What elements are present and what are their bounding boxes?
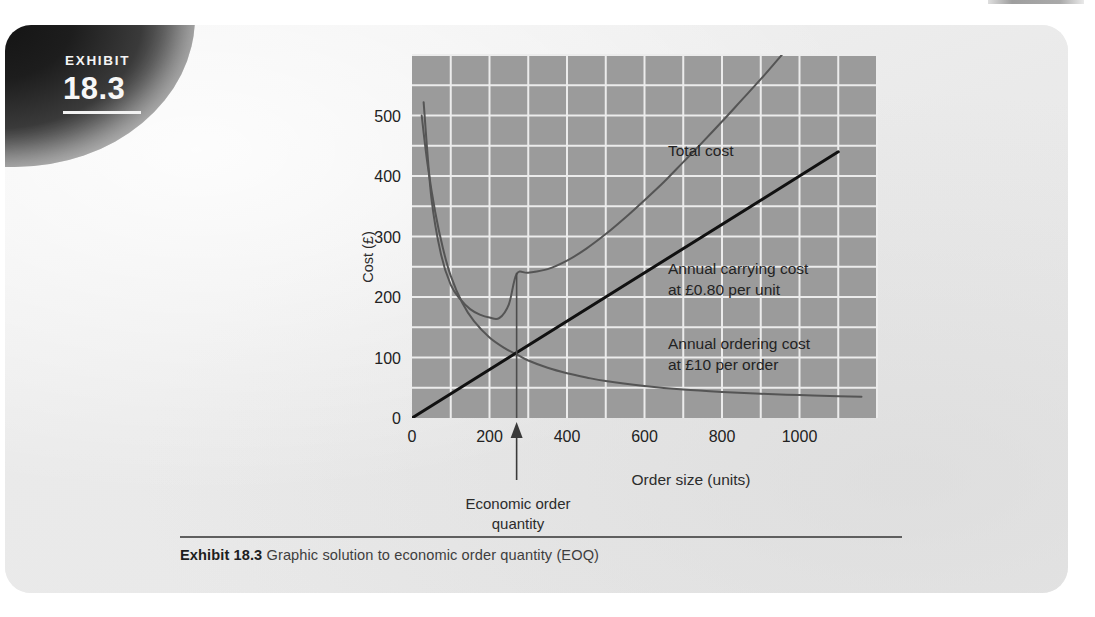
annotation-ordering-cost-line1: Annual ordering cost <box>668 335 811 352</box>
x-axis-title: Order size (units) <box>632 471 751 488</box>
y-axis-title: Cost (£) <box>360 231 376 283</box>
caption-description: Graphic solution to economic order quant… <box>266 547 599 563</box>
annotation-eoq-line2: quantity <box>492 515 545 532</box>
svg-text:0: 0 <box>392 410 401 427</box>
svg-text:100: 100 <box>374 350 401 367</box>
annotation-carrying-cost-line1: Annual carrying cost <box>668 260 809 277</box>
figure-panel: EXHIBIT 18.3 <box>5 25 1068 593</box>
svg-text:500: 500 <box>374 108 401 125</box>
annotation-ordering-cost-line2: at £10 per order <box>668 356 778 373</box>
caption-exhibit-number: Exhibit 18.3 <box>180 547 262 563</box>
caption-block: Exhibit 18.3 Graphic solution to economi… <box>180 536 920 563</box>
svg-text:400: 400 <box>554 428 581 445</box>
annotation-total-cost: Total cost <box>668 142 734 159</box>
eoq-arrow <box>511 422 523 480</box>
annotation-carrying-cost-line2: at £0.80 per unit <box>668 281 781 298</box>
caption-text: Exhibit 18.3 Graphic solution to economi… <box>180 547 920 563</box>
chart-region: 02004006008001000 0100200300400500 Order… <box>5 25 1068 593</box>
svg-text:300: 300 <box>374 229 401 246</box>
svg-text:200: 200 <box>476 428 503 445</box>
svg-text:600: 600 <box>631 428 658 445</box>
svg-text:400: 400 <box>374 168 401 185</box>
annotation-eoq-line1: Economic order <box>465 495 570 512</box>
svg-text:200: 200 <box>374 289 401 306</box>
svg-text:0: 0 <box>408 428 417 445</box>
svg-text:800: 800 <box>709 428 736 445</box>
x-axis-tick-labels: 02004006008001000 <box>408 428 818 445</box>
svg-text:1000: 1000 <box>782 428 818 445</box>
eoq-chart: 02004006008001000 0100200300400500 Order… <box>5 25 1068 593</box>
caption-rule <box>180 536 902 538</box>
y-axis-tick-labels: 0100200300400500 <box>374 108 401 428</box>
scan-artifact-bar <box>988 0 1084 4</box>
